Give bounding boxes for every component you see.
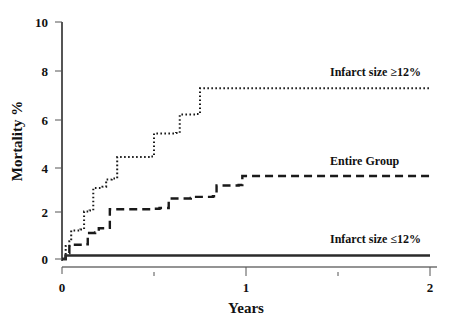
x-tick-label-2: 2	[427, 280, 434, 295]
x-tick-label-1: 1	[243, 280, 250, 295]
y-axis-title: Mortality %	[9, 101, 25, 181]
y-tick-label-0: 0	[42, 252, 49, 267]
x-tick-label-0: 0	[59, 280, 66, 295]
series-label-infarct-high: Infarct size ≥12%	[330, 65, 421, 79]
x-axis-title: Years	[228, 300, 264, 316]
y-tick-label-10: 10	[35, 15, 48, 30]
chart-canvas: 10 8 6 4 2 0 0 1 2 Mortality % Years Inf…	[0, 0, 453, 324]
y-tick-label-2: 2	[42, 205, 49, 220]
mortality-survival-chart: 10 8 6 4 2 0 0 1 2 Mortality % Years Inf…	[0, 0, 453, 324]
series-label-entire-group: Entire Group	[330, 154, 400, 168]
y-tick-label-4: 4	[42, 161, 49, 176]
y-tick-label-6: 6	[42, 113, 49, 128]
series-label-infarct-low: Infarct size ≤12%	[330, 232, 421, 246]
y-tick-label-8: 8	[42, 64, 49, 79]
